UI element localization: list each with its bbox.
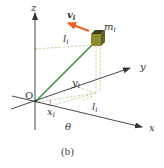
position-vector	[36, 44, 93, 101]
y-axis-label: y	[139, 61, 146, 72]
figure-caption: (b)	[61, 145, 74, 158]
l-lower-subscript: i	[95, 106, 97, 114]
velocity-label: vi	[67, 9, 76, 22]
theta-label: θ	[65, 121, 71, 132]
dashed-foot-to-x-axis	[50, 93, 96, 106]
mass-symbol: m	[104, 21, 113, 32]
dashed-z-foot-marker	[35, 48, 39, 49]
velocity-subscript: i	[73, 13, 76, 22]
mass-cube	[91, 30, 105, 46]
l-lower-label: li	[92, 101, 97, 114]
origin-point	[35, 100, 38, 103]
z-axis-label: z	[30, 2, 37, 13]
mass-subscript: i	[113, 26, 115, 34]
y-axis	[11, 68, 130, 109]
cube-front-face	[91, 34, 101, 46]
l-upper-label: li	[63, 33, 68, 46]
origin-label: O	[25, 90, 33, 101]
rotating-mass-diagram: z y x O vi mi li yi li xi θ (b)	[0, 0, 164, 168]
mass-label: mi	[104, 21, 116, 34]
velocity-arrow	[68, 23, 89, 31]
projection-lines	[35, 44, 100, 106]
x-coord-label: xi	[47, 106, 55, 119]
dashed-foot-to-origin	[38, 93, 96, 102]
x-axis-label: x	[149, 122, 155, 133]
x-coord-subscript: i	[53, 111, 55, 119]
dashed-cube-to-z-axis	[35, 45, 93, 49]
dashed-foot-to-y-axis	[78, 87, 96, 93]
l-upper-subscript: i	[66, 38, 68, 46]
y-coord-subscript: i	[78, 82, 80, 90]
